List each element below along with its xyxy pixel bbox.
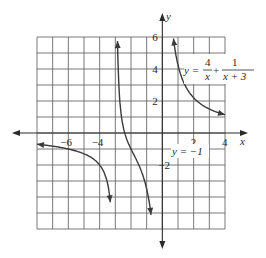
y-axis-label: y [165, 10, 171, 22]
equation-label: y = 4 x + 1 x + 3 [183, 54, 256, 84]
asymptote-label: y = −1 [171, 144, 209, 158]
svg-text:x: x [204, 70, 210, 82]
svg-text:y = −1: y = −1 [171, 145, 203, 157]
x-tick-label: −6 [60, 136, 72, 148]
axes [12, 13, 248, 249]
x-tick-label: 4 [222, 136, 228, 148]
curve-arrow-icon [147, 208, 153, 215]
arrow-down-icon [159, 241, 165, 249]
y-tick-label: 2 [152, 95, 158, 107]
y-tick-label: 6 [152, 31, 158, 43]
svg-text:4: 4 [205, 56, 211, 68]
y-tick-label: −2 [158, 159, 170, 171]
svg-text:1: 1 [232, 56, 238, 68]
curve-arrow-icon [217, 110, 225, 116]
svg-text:y =: y = [183, 64, 199, 76]
x-tick-label: −4 [92, 136, 104, 148]
x-axis-label: x [239, 135, 245, 147]
curve-branch-middle [118, 41, 152, 215]
rational-function-graph: −6−424642−2 x y y = 4 x + 1 x + 3 y = −1 [0, 0, 266, 258]
y-tick-label: 4 [152, 63, 158, 75]
svg-text:x + 3: x + 3 [222, 70, 247, 82]
arrow-left-icon [12, 130, 20, 136]
svg-text:+: + [213, 64, 219, 76]
arrow-up-icon [159, 13, 165, 21]
